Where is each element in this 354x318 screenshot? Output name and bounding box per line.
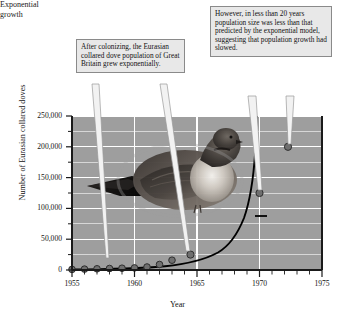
x-axis-title: Year [170, 300, 185, 309]
y-tick-label-50000: 50,000 [16, 234, 62, 243]
y-tick-label-0: 0 [16, 265, 62, 274]
data-point [256, 189, 263, 196]
callout-slowed: However, in less than 20 years populatio… [210, 6, 332, 57]
callout-colonizing: After colonizing, the Eurasian collared … [76, 39, 185, 73]
y-tick-label-200000: 200,000 [16, 142, 62, 151]
x-tick-label-1975: 1975 [302, 279, 342, 288]
x-tick-label-1960: 1960 [115, 279, 155, 288]
x-tick-label-1955: 1955 [52, 279, 92, 288]
figure-eurasian-collared-dove-population: After colonizing, the Eurasian collared … [0, 0, 354, 318]
x-tick-label-1970: 1970 [240, 279, 280, 288]
y-tick-label-250000: 250,000 [16, 111, 62, 120]
y-tick-label-100000: 100,000 [16, 203, 62, 212]
data-point [156, 261, 163, 268]
data-point [187, 251, 194, 258]
data-point [169, 257, 176, 264]
x-tick-label-1965: 1965 [177, 279, 217, 288]
y-tick-label-150000: 150,000 [16, 173, 62, 182]
